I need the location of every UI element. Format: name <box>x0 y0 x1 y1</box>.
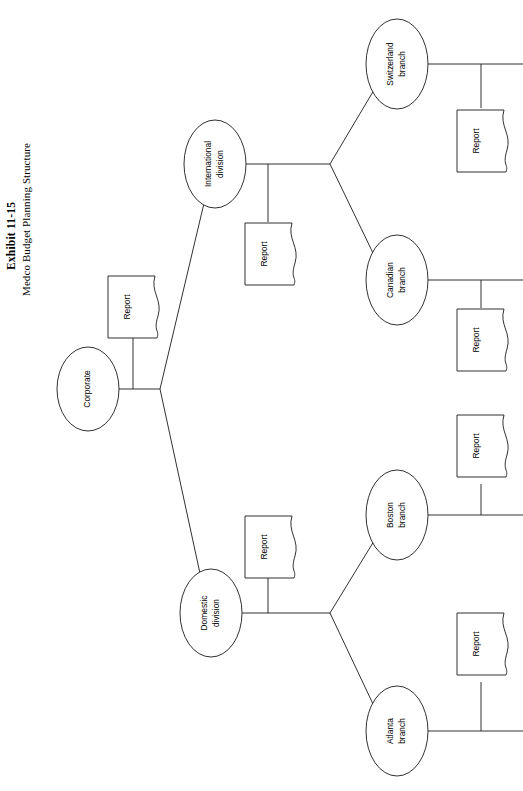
edge-domestic-atlanta <box>330 613 373 704</box>
node-corporate: Corporate <box>57 347 119 431</box>
report-label-switzerland: Report <box>471 128 481 154</box>
report-label-domestic: Report <box>259 534 269 560</box>
edge-international-switzerland <box>330 90 374 164</box>
report-node-international: Report <box>245 223 296 285</box>
report-node-boston: Report <box>457 415 508 477</box>
node-label-atlanta-line2: branch <box>397 718 407 744</box>
edge-corporate-international <box>160 199 205 389</box>
edge-corporate-domestic <box>160 389 201 578</box>
report-label-boston: Report <box>471 433 481 459</box>
node-label-international-line2: division <box>215 150 225 178</box>
node-label-corporate: Corporate <box>82 370 92 408</box>
node-international-division: International division <box>184 120 246 208</box>
node-group: Corporate International division Domesti… <box>57 19 428 776</box>
node-label-domestic-line1: Domestic <box>199 596 209 631</box>
edge-domestic-boston <box>330 541 374 613</box>
report-node-canadian: Report <box>457 309 508 371</box>
node-canadian-branch: Canadian branch <box>366 235 428 325</box>
node-label-switzerland-line2: branch <box>397 51 407 77</box>
node-label-international-line1: International <box>203 141 213 187</box>
node-domestic-division: Domestic division <box>180 569 242 657</box>
report-node-corporate: Report <box>108 276 159 338</box>
report-group: Report Report Report Report Report <box>108 110 508 675</box>
report-node-atlanta: Report <box>457 613 508 675</box>
node-label-domestic-line2: division <box>211 599 221 627</box>
node-switzerland-branch: Switzerland branch <box>366 19 428 109</box>
node-boston-branch: Boston branch <box>366 470 428 560</box>
report-label-corporate: Report <box>122 294 132 320</box>
node-label-boston-line2: branch <box>397 502 407 528</box>
edge-international-canadian <box>330 164 373 253</box>
node-label-atlanta-line1: Atlanta <box>385 718 395 744</box>
report-node-switzerland: Report <box>457 110 508 172</box>
report-node-domestic: Report <box>245 516 296 578</box>
report-label-atlanta: Report <box>471 631 481 657</box>
node-atlanta-branch: Atlanta branch <box>366 686 428 776</box>
figure-page: Exhibit 11-15 Medco Budget Planning Stru… <box>0 0 523 791</box>
report-label-canadian: Report <box>471 327 481 353</box>
org-tree-diagram: Report Report Report Report Report <box>0 0 523 791</box>
node-label-boston-line1: Boston <box>385 502 395 528</box>
node-label-canadian-line2: branch <box>397 267 407 293</box>
node-label-canadian-line1: Canadian <box>385 262 395 298</box>
report-label-international: Report <box>259 241 269 267</box>
node-label-switzerland-line1: Switzerland <box>385 42 395 86</box>
